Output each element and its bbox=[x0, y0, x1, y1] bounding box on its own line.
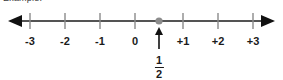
number-line-graphic bbox=[0, 0, 283, 80]
marked-point-fraction-label: 1 2 bbox=[154, 55, 164, 80]
tick-label-minus-2: -2 bbox=[60, 36, 70, 47]
tick-label-plus-1: +1 bbox=[177, 36, 190, 47]
up-arrow-pointer-icon bbox=[155, 27, 163, 35]
fraction-denominator: 2 bbox=[154, 68, 164, 80]
tick-label-plus-3: +3 bbox=[247, 36, 260, 47]
tick-label-minus-1: -1 bbox=[95, 36, 105, 47]
marked-point-dot bbox=[155, 17, 162, 24]
fraction-numerator: 1 bbox=[154, 55, 164, 67]
tick-label-zero: 0 bbox=[132, 36, 138, 47]
right-arrowhead-icon bbox=[261, 15, 275, 27]
number-line-figure: Example: -3 -2 -1 0 +1 +2 +3 1 2 bbox=[0, 0, 283, 80]
tick-label-plus-2: +2 bbox=[212, 36, 225, 47]
left-arrowhead-icon bbox=[8, 15, 22, 27]
tick-label-minus-3: -3 bbox=[25, 36, 35, 47]
